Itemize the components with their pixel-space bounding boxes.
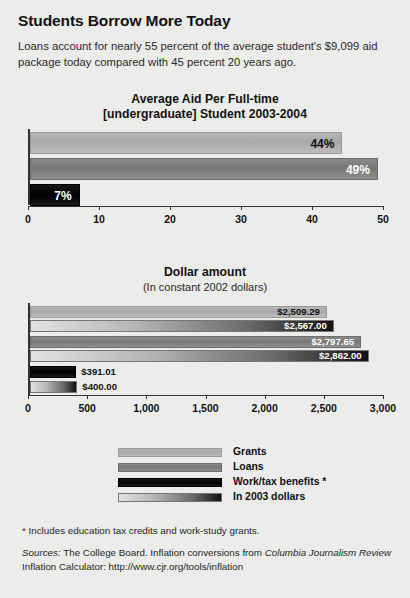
chart-2-title: Dollar amount bbox=[0, 265, 410, 280]
footnote-sources: Sources: The College Board. Inflation co… bbox=[22, 546, 397, 574]
tick-mark bbox=[324, 395, 325, 399]
legend-swatch-work-tax-benefits bbox=[118, 478, 222, 487]
chart-1-title-line2: [undergraduate] Student 2003-2004 bbox=[0, 107, 410, 122]
tick-mark bbox=[146, 395, 147, 399]
bar-label-loans-2003: $2,862.00 bbox=[319, 351, 362, 361]
bar-label-grants-2003: $2,567.00 bbox=[284, 321, 327, 331]
legend-label-2003-dollars: In 2003 dollars bbox=[233, 491, 305, 502]
tick-label: 2,500 bbox=[311, 402, 337, 414]
bar-loans-2003 bbox=[30, 350, 369, 362]
tick-label: 500 bbox=[78, 402, 96, 414]
tick-label: 0 bbox=[25, 402, 31, 414]
sources-emphasis-2: Review bbox=[359, 547, 391, 558]
legend-swatch-2003-dollars bbox=[118, 493, 222, 502]
tick-mark bbox=[383, 206, 384, 210]
legend-label-loans: Loans bbox=[233, 461, 264, 472]
tick-mark bbox=[87, 395, 88, 399]
legend-label-grants: Grants bbox=[233, 446, 267, 457]
tick-mark bbox=[28, 206, 29, 210]
tick-label: 30 bbox=[235, 213, 247, 225]
sources-emphasis-1: Columbia Journalism bbox=[265, 547, 356, 558]
bar-label-work-2003: $400.00 bbox=[82, 382, 117, 392]
tick-label: 3,000 bbox=[370, 402, 396, 414]
tick-mark bbox=[99, 206, 100, 210]
chart-1-x-axis bbox=[28, 206, 383, 207]
sources-text-1: The College Board. Inflation conversions… bbox=[61, 547, 265, 558]
tick-label: 10 bbox=[93, 213, 105, 225]
bar-label-work-2002: $391.01 bbox=[81, 367, 116, 377]
bar-label-grants-2002: $2,509.29 bbox=[277, 307, 320, 317]
tick-mark bbox=[265, 395, 266, 399]
deck-text: Loans account for nearly 55 percent of t… bbox=[18, 38, 392, 70]
legend-swatch-loans bbox=[118, 463, 222, 472]
legend-label-work-tax-benefits: Work/tax benefits * bbox=[233, 476, 326, 487]
tick-label: 2,000 bbox=[252, 402, 278, 414]
infographic-page: Students Borrow More Today Loans account… bbox=[0, 0, 410, 598]
tick-mark bbox=[28, 395, 29, 399]
tick-mark bbox=[206, 395, 207, 399]
chart-2-subtitle: (In constant 2002 dollars) bbox=[0, 281, 410, 293]
sources-label: Sources: bbox=[22, 547, 61, 558]
bar-work-2003 bbox=[30, 381, 77, 393]
tick-mark bbox=[312, 206, 313, 210]
page-title: Students Borrow More Today bbox=[18, 12, 398, 30]
tick-label: 20 bbox=[164, 213, 176, 225]
sources-text-2: Inflation Calculator: http://www.cjr.org… bbox=[22, 561, 243, 572]
tick-label: 0 bbox=[25, 213, 31, 225]
bar-loans bbox=[30, 158, 378, 180]
tick-label: 40 bbox=[306, 213, 318, 225]
tick-label: 1,000 bbox=[133, 402, 159, 414]
bar-label-loans: 49% bbox=[346, 164, 370, 176]
tick-mark bbox=[383, 395, 384, 399]
bar-label-work-tax-benefits: 7% bbox=[54, 190, 71, 202]
tick-mark bbox=[241, 206, 242, 210]
chart-1-title-line1: Average Aid Per Full-time bbox=[0, 92, 410, 107]
chart-1-plot-area: 44% 49% 7% bbox=[28, 129, 383, 205]
tick-label: 50 bbox=[377, 213, 389, 225]
legend-swatch-grants bbox=[118, 448, 222, 457]
bar-work-2002 bbox=[30, 366, 76, 378]
footnote-asterisk: * Includes education tax credits and wor… bbox=[22, 524, 397, 538]
bar-label-loans-2002: $2,797.65 bbox=[311, 337, 354, 347]
chart-2-plot-area: $2,509.29 $2,567.00 $2,797.65 $2,862.00 … bbox=[28, 303, 383, 396]
tick-label: 1,500 bbox=[192, 402, 218, 414]
tick-mark bbox=[170, 206, 171, 210]
bar-grants bbox=[30, 132, 342, 154]
bar-label-grants: 44% bbox=[310, 138, 334, 150]
